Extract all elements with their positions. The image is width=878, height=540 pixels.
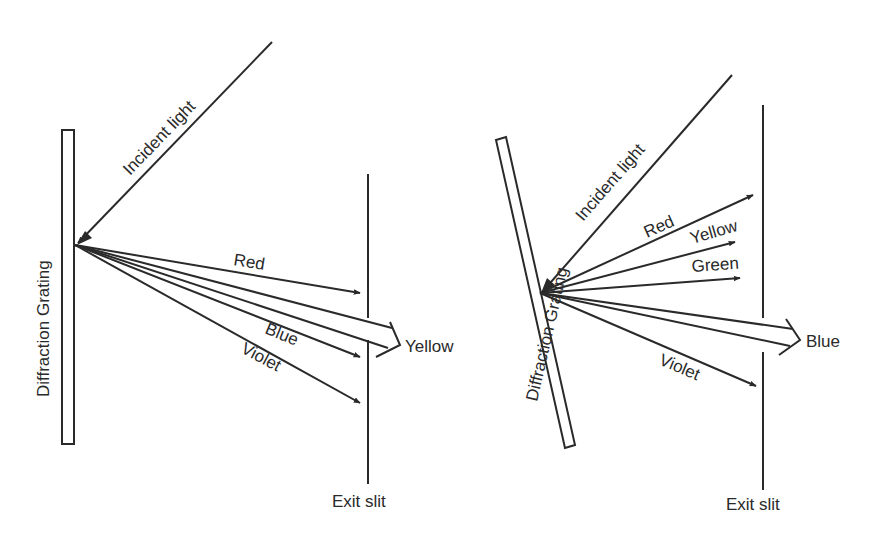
right-ray-blue-lower	[540, 293, 790, 346]
left-incident-label: Incident light	[119, 97, 199, 179]
left-ray-violet-label: Violet	[238, 339, 284, 376]
left-ray-blue-label: Blue	[263, 319, 302, 349]
left-ray-red-label: Red	[232, 250, 266, 274]
right-ray-red	[540, 195, 753, 293]
right-ray-blue-upper	[540, 293, 793, 329]
left-ray-blue	[75, 245, 360, 357]
right-ray-blue-arrowhead	[779, 319, 800, 355]
right-ray-green-label: Green	[691, 254, 739, 276]
left-panel: Diffraction Grating Incident light Exit …	[34, 42, 454, 511]
left-incident-ray	[78, 42, 272, 243]
right-panel: Diffraction Grating Incident light Exit …	[496, 75, 840, 514]
left-exit-label: Exit slit	[332, 492, 386, 511]
left-grating-label: Diffraction Grating	[34, 260, 53, 397]
right-ray-violet	[540, 293, 756, 386]
left-grating	[62, 130, 74, 444]
left-ray-yellow-label: Yellow	[405, 337, 454, 356]
right-ray-blue-label: Blue	[806, 332, 840, 351]
right-exit-label: Exit slit	[726, 495, 780, 514]
left-incident-arrowhead	[77, 231, 92, 245]
diffraction-diagram: Diffraction Grating Incident light Exit …	[0, 0, 878, 540]
right-ray-violet-label: Violet	[656, 350, 703, 384]
